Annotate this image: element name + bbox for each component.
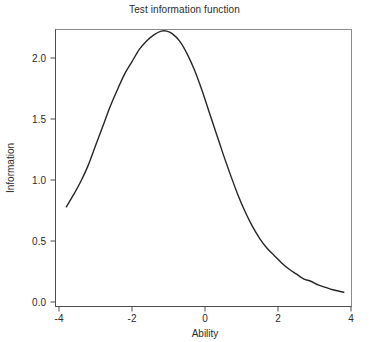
test-information-plot: -4-2024 0.00.51.01.52.0 Ability Informat…: [0, 0, 369, 342]
y-tick-label: 0.5: [32, 236, 46, 247]
chart-screenshot: Test information function -4-2024 0.00.5…: [0, 0, 369, 342]
y-tick-label: 1.0: [32, 175, 46, 186]
y-axis-ticks: 0.00.51.01.52.0: [32, 53, 55, 308]
x-tick-label: 0: [202, 313, 208, 324]
y-tick-label: 2.0: [32, 53, 46, 64]
plot-frame: [56, 30, 352, 307]
x-tick-label: -2: [128, 313, 137, 324]
x-axis-title: Ability: [192, 328, 219, 339]
y-tick-label: 0.0: [32, 297, 46, 308]
x-tick-label: -4: [55, 313, 64, 324]
x-axis-ticks: -4-2024: [55, 307, 355, 325]
y-axis-title: Information: [5, 143, 16, 193]
x-tick-label: 4: [348, 313, 354, 324]
information-curve: [66, 31, 343, 292]
y-tick-label: 1.5: [32, 114, 46, 125]
x-tick-label: 2: [275, 313, 281, 324]
